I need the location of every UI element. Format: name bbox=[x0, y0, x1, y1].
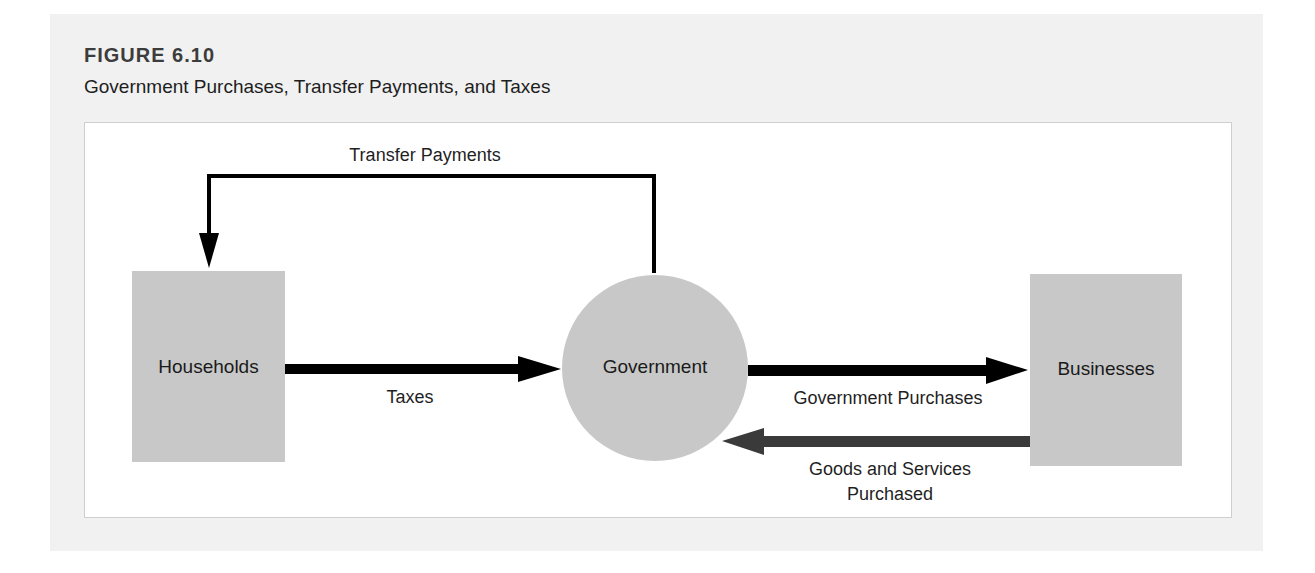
government-label: Government bbox=[562, 356, 748, 378]
households-label: Households bbox=[132, 356, 285, 378]
flow-diagram bbox=[0, 0, 1315, 573]
transfer-payments-arrow bbox=[199, 176, 654, 273]
goods-services-arrow bbox=[722, 428, 1030, 455]
government-purchases-label: Government Purchases bbox=[760, 386, 1016, 410]
goods-services-label-line1: Goods and Services bbox=[770, 457, 1010, 481]
taxes-arrow bbox=[285, 356, 561, 382]
government-purchases-arrow bbox=[748, 357, 1028, 384]
businesses-label: Businesses bbox=[1030, 358, 1182, 380]
goods-services-label-line2: Purchased bbox=[770, 482, 1010, 506]
transfer-payments-label: Transfer Payments bbox=[310, 143, 540, 167]
taxes-label: Taxes bbox=[380, 385, 440, 409]
